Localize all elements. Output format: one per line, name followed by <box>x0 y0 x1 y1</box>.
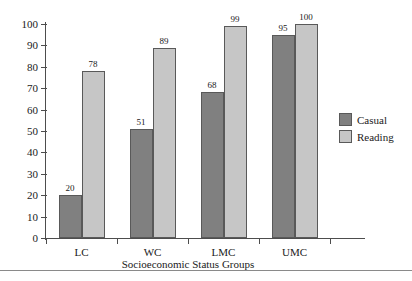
bar-chart: 1009080706050403020100 20785189689995100… <box>0 0 412 281</box>
y-axis-tick-label: 80 <box>0 62 38 73</box>
bar-wc-reading <box>153 48 176 238</box>
legend-swatch-icon <box>339 130 352 143</box>
bar-lc-reading <box>82 71 105 238</box>
x-axis-category-label: LMC <box>188 246 259 258</box>
y-axis-tick-label: 90 <box>0 40 38 51</box>
y-axis-tick-label: 40 <box>0 147 38 158</box>
y-axis-tick-label-text: 40 <box>4 147 38 158</box>
x-axis-tick <box>188 238 189 244</box>
bar-umc-casual <box>272 35 295 238</box>
bar-lc-casual <box>59 195 82 238</box>
y-axis-tick-label-text: 30 <box>4 169 38 180</box>
bottom-divider <box>0 270 412 271</box>
y-axis-tick-label-text: 100 <box>4 19 38 30</box>
bar-value-label: 78 <box>76 60 111 69</box>
y-axis-tick-label: 30 <box>0 169 38 180</box>
x-axis-tick <box>259 238 260 244</box>
x-axis-category-label: UMC <box>259 246 330 258</box>
y-axis-tick-label-text: 20 <box>4 190 38 201</box>
legend-item-casual: Casual <box>339 111 394 128</box>
y-axis-tick-label: 70 <box>0 83 38 94</box>
y-axis-tick-label-text: 60 <box>4 105 38 116</box>
bar-umc-reading <box>295 24 318 238</box>
x-axis-tick <box>117 238 118 244</box>
bar-value-label: 99 <box>218 15 253 24</box>
chart-legend: CasualReading <box>339 111 394 145</box>
y-axis-tick-label-text: 50 <box>4 126 38 137</box>
x-axis-category-label: LC <box>46 246 117 258</box>
x-axis-line <box>45 238 365 239</box>
y-axis-tick-label: 0 <box>0 233 38 244</box>
y-axis-tick-label: 50 <box>0 126 38 137</box>
legend-label: Casual <box>357 114 387 126</box>
x-axis-category-label: WC <box>117 246 188 258</box>
y-axis-tick-label: 60 <box>0 105 38 116</box>
y-axis-tick-label-text: 0 <box>4 233 38 244</box>
bar-lmc-casual <box>201 92 224 238</box>
legend-item-reading: Reading <box>339 128 394 145</box>
y-axis-tick-label-text: 90 <box>4 40 38 51</box>
bar-value-label: 100 <box>289 13 324 22</box>
x-axis-tick <box>46 238 47 244</box>
plot-area: 20785189689995100 <box>46 24 330 238</box>
y-axis-tick-label: 20 <box>0 190 38 201</box>
bar-lmc-reading <box>224 26 247 238</box>
bar-wc-casual <box>130 129 153 238</box>
bar-value-label: 89 <box>147 37 182 46</box>
legend-label: Reading <box>357 131 394 143</box>
x-axis-title: Socioeconomic Status Groups <box>46 258 330 270</box>
x-axis-tick <box>330 238 331 244</box>
y-axis-tick-label-text: 70 <box>4 83 38 94</box>
y-axis-tick-label-text: 10 <box>4 212 38 223</box>
y-axis-tick-label: 10 <box>0 212 38 223</box>
y-axis-tick-label: 100 <box>0 19 38 30</box>
y-axis-tick-label-text: 80 <box>4 62 38 73</box>
legend-swatch-icon <box>339 113 352 126</box>
